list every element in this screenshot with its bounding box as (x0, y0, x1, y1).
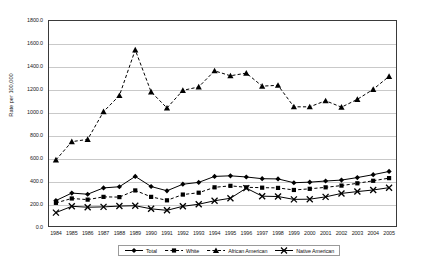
diamond-marker (131, 248, 136, 253)
square-marker (387, 176, 391, 180)
x-axis-tick-label: 1989 (130, 230, 141, 236)
x-axis-tick-label: 1986 (82, 230, 93, 236)
diamond-marker (85, 192, 90, 197)
triangle-marker (132, 47, 138, 53)
square-marker (276, 186, 280, 190)
square-marker (54, 201, 58, 205)
square-marker (197, 191, 201, 195)
x-axis-tick-label: 1993 (193, 230, 204, 236)
legend-swatch-square (164, 246, 184, 255)
x-axis-tick-label: 1987 (98, 230, 109, 236)
triangle-marker (259, 83, 265, 89)
y-axis-tick-label: 200.0 (30, 201, 43, 207)
triangle-marker (386, 73, 392, 79)
legend-item-white[interactable]: White (164, 246, 199, 255)
diamond-marker (164, 188, 169, 193)
square-marker (86, 198, 90, 202)
triangle-marker (85, 136, 91, 142)
x-axis-tick-label: 2003 (352, 230, 363, 236)
square-marker (133, 188, 137, 192)
triangle-marker (148, 89, 154, 95)
x-axis-tick-label: 2000 (304, 230, 315, 236)
y-axis-tick-label: 1600.0 (27, 40, 43, 46)
legend-swatch-diamond (124, 246, 144, 255)
diamond-marker (133, 174, 138, 179)
x-axis-tick-label: 1990 (145, 230, 156, 236)
y-axis-tick-label: 600.0 (30, 155, 43, 161)
x-axis-tick-label: 2005 (383, 230, 394, 236)
triangle-marker (69, 139, 75, 145)
y-axis-tick-label: 1200.0 (27, 86, 43, 92)
chart-container: Rate per 100,000 0.0200.0400.0600.0800.0… (0, 0, 427, 263)
square-marker (117, 195, 121, 199)
legend-label: Native American (296, 248, 334, 254)
x-axis-tick-label: 1999 (288, 230, 299, 236)
square-marker (149, 195, 153, 199)
square-marker (371, 179, 375, 183)
square-marker (292, 188, 296, 192)
diamond-marker (101, 185, 106, 190)
diamond-marker (149, 184, 154, 189)
square-marker (324, 185, 328, 189)
triangle-marker (323, 98, 329, 104)
x-axis-tick-label: 1994 (209, 230, 220, 236)
x-axis-tick-label: 2004 (367, 230, 378, 236)
legend-swatch-triangle (206, 246, 226, 255)
diamond-marker (212, 174, 217, 179)
diamond-marker (180, 182, 185, 187)
legend-label: White (186, 248, 199, 254)
legend-label: Total (146, 248, 157, 254)
diamond-marker (386, 169, 391, 174)
x-axis-tick-label: 1985 (66, 230, 77, 236)
square-marker (212, 185, 216, 189)
x-axis-tick-label: 1998 (272, 230, 283, 236)
triangle-marker (354, 96, 360, 102)
diamond-marker (275, 176, 280, 181)
triangle-marker (243, 70, 249, 76)
triangle-marker (275, 82, 281, 88)
x-axis-tick-label: 2002 (336, 230, 347, 236)
square-marker (355, 181, 359, 185)
diamond-marker (339, 177, 344, 182)
y-axis-tick-label: 1000.0 (27, 109, 43, 115)
square-marker (101, 195, 105, 199)
legend-item-african-american[interactable]: African American (206, 246, 267, 255)
x-axis-tick-label: 1992 (177, 230, 188, 236)
diamond-marker (291, 180, 296, 185)
square-marker (228, 184, 232, 188)
series-african-american (53, 47, 392, 163)
x-axis-tick-label: 1984 (50, 230, 61, 236)
x-axis-tick-label: 1988 (114, 230, 125, 236)
diamond-marker (355, 175, 360, 180)
triangle-marker (116, 92, 122, 98)
y-axis-tick-label: 800.0 (30, 132, 43, 138)
legend-item-total[interactable]: Total (124, 246, 157, 255)
triangle-marker (211, 68, 217, 74)
chart-legend: TotalWhiteAfrican AmericanNative America… (118, 245, 340, 256)
triangle-marker (100, 109, 106, 115)
y-axis-tick-label: 400.0 (30, 178, 43, 184)
diamond-marker (244, 174, 249, 179)
square-marker (172, 248, 176, 252)
square-marker (70, 196, 74, 200)
triangle-marker (196, 84, 202, 90)
square-marker (165, 198, 169, 202)
y-axis-tick-label: 1800.0 (27, 17, 43, 23)
square-marker (308, 187, 312, 191)
legend-item-native-american[interactable]: Native American (274, 246, 334, 255)
diamond-marker (260, 176, 265, 181)
triangle-marker (370, 86, 376, 92)
x-axis-tick-labels: 1984198519861987198819891990199119921993… (48, 230, 397, 242)
legend-label: African American (228, 248, 267, 254)
triangle-marker (180, 87, 186, 93)
triangle-marker (291, 104, 297, 110)
x-axis-tick-label: 1997 (256, 230, 267, 236)
diamond-marker (69, 190, 74, 195)
y-axis-tick-label: 0.0 (36, 224, 43, 230)
triangle-marker (338, 104, 344, 110)
x-axis-tick-label: 2001 (320, 230, 331, 236)
chart-data-layer (48, 20, 397, 227)
diamond-marker (196, 180, 201, 185)
x-axis-tick-label: 1995 (225, 230, 236, 236)
x-axis-tick-label: 1996 (241, 230, 252, 236)
